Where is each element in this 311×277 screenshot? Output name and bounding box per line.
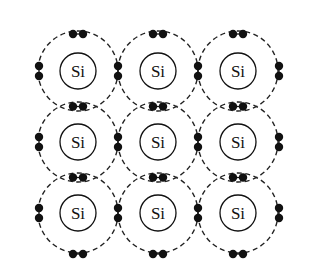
electron-dot	[35, 204, 43, 212]
electron-dot	[239, 30, 247, 38]
element-label: Si	[151, 62, 165, 81]
electron-dot	[79, 102, 87, 110]
electron-pair	[229, 102, 247, 110]
silicon-atom: Si	[220, 53, 256, 89]
silicon-atom: Si	[140, 53, 176, 89]
electron-dot	[275, 214, 283, 222]
electron-dot	[239, 250, 247, 258]
electron-dot	[275, 143, 283, 151]
electron-pair	[114, 204, 122, 222]
electron-dot	[229, 250, 237, 258]
electron-dot	[79, 250, 87, 258]
electron-pair	[194, 62, 202, 80]
electron-pair	[35, 133, 43, 151]
electron-dot	[114, 204, 122, 212]
silicon-atoms: SiSiSiSiSiSiSiSiSi	[60, 53, 256, 231]
electron-pair	[229, 173, 247, 181]
silicon-atom: Si	[60, 195, 96, 231]
electron-dot	[229, 173, 237, 181]
element-label: Si	[151, 204, 165, 223]
electron-dot	[114, 62, 122, 70]
electron-dot	[114, 143, 122, 151]
electron-dot	[35, 143, 43, 151]
electron-dot	[194, 143, 202, 151]
electron-dot	[149, 30, 157, 38]
electron-pair	[275, 204, 283, 222]
electron-dot	[159, 30, 167, 38]
electron-dot	[35, 214, 43, 222]
electron-dot	[79, 173, 87, 181]
electron-dot	[35, 62, 43, 70]
element-label: Si	[231, 62, 245, 81]
electron-dot	[159, 250, 167, 258]
silicon-atom: Si	[60, 53, 96, 89]
electron-dot	[159, 173, 167, 181]
silicon-atom: Si	[140, 124, 176, 160]
electron-pair	[149, 250, 167, 258]
electron-pair	[149, 102, 167, 110]
electron-dot	[229, 102, 237, 110]
electron-pair	[69, 173, 87, 181]
electron-dot	[229, 30, 237, 38]
electron-dot	[194, 62, 202, 70]
element-label: Si	[231, 133, 245, 152]
electron-dot	[275, 133, 283, 141]
electron-dot	[239, 102, 247, 110]
silicon-atom: Si	[60, 124, 96, 160]
electron-pair	[194, 204, 202, 222]
electron-pair	[69, 250, 87, 258]
electron-pair	[69, 102, 87, 110]
electron-dot	[69, 250, 77, 258]
electron-pair	[275, 133, 283, 151]
electron-dot	[194, 72, 202, 80]
electron-dot	[149, 250, 157, 258]
element-label: Si	[231, 204, 245, 223]
silicon-atom: Si	[220, 124, 256, 160]
electron-dot	[275, 72, 283, 80]
electron-dot	[35, 133, 43, 141]
electron-pair	[149, 173, 167, 181]
electron-dot	[275, 62, 283, 70]
electron-pair	[114, 133, 122, 151]
electron-dot	[194, 133, 202, 141]
silicon-atom: Si	[220, 195, 256, 231]
electron-pair	[114, 62, 122, 80]
electron-dot	[79, 30, 87, 38]
electron-dot	[194, 204, 202, 212]
electron-dot	[69, 30, 77, 38]
electron-dot	[239, 173, 247, 181]
silicon-lattice-diagram: SiSiSiSiSiSiSiSiSi	[0, 0, 311, 277]
electron-dot	[114, 214, 122, 222]
element-label: Si	[71, 133, 85, 152]
electron-dot	[194, 214, 202, 222]
electron-dot	[114, 72, 122, 80]
electron-dot	[159, 102, 167, 110]
electron-pair	[229, 250, 247, 258]
electron-pair	[275, 62, 283, 80]
element-label: Si	[71, 204, 85, 223]
element-label: Si	[151, 133, 165, 152]
electron-pair	[35, 62, 43, 80]
electron-dot	[69, 102, 77, 110]
electron-dot	[35, 72, 43, 80]
electron-dot	[149, 102, 157, 110]
element-label: Si	[71, 62, 85, 81]
silicon-atom: Si	[140, 195, 176, 231]
electron-dot	[149, 173, 157, 181]
electron-pair	[35, 204, 43, 222]
electron-dot	[275, 204, 283, 212]
electron-pair	[194, 133, 202, 151]
electron-dot	[114, 133, 122, 141]
electron-dot	[69, 173, 77, 181]
